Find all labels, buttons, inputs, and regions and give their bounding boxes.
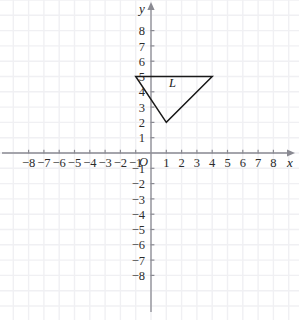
x-tick-label: 6 [240,156,246,170]
plotted-shapes: L [136,76,213,122]
y-tick-label: −5 [132,223,145,237]
x-tick-label: 8 [270,156,276,170]
x-tick-label: 2 [178,156,184,170]
x-tick-label: 3 [194,156,200,170]
y-tick-label: 7 [139,40,145,54]
y-tick-label: −4 [132,208,146,222]
x-tick-label: −8 [22,156,35,170]
x-tick-label: 7 [255,156,261,170]
x-tick-label: −6 [53,156,66,170]
y-tick-label: −2 [132,177,145,191]
x-tick-label: 1 [163,156,169,170]
x-tick-label: 5 [224,156,230,170]
origin-label: O [139,155,148,169]
shape-label-L: L [168,76,176,90]
x-tick-label: −4 [83,156,97,170]
x-tick-label: −2 [114,156,127,170]
coordinate-plane-svg: −8−7−6−5−4−3−2−11234567887654321−1−2−3−4… [0,0,299,320]
y-tick-label: 8 [139,24,145,38]
y-tick-label: 2 [139,116,145,130]
x-tick-label: −7 [37,156,50,170]
y-tick-label: −8 [132,269,145,283]
x-tick-label: −3 [98,156,111,170]
axis-name-labels: xy [137,1,293,170]
coordinate-plane-figure: −8−7−6−5−4−3−2−11234567887654321−1−2−3−4… [0,0,299,320]
x-axis-name-label: x [286,155,293,170]
y-tick-label: 1 [139,131,145,145]
y-tick-label: −3 [132,193,145,207]
x-tick-label: −5 [68,156,81,170]
y-tick-label: −6 [132,238,145,252]
x-tick-label: 4 [209,156,216,170]
y-tick-label: 6 [139,55,145,69]
y-tick-label: 3 [139,101,145,115]
y-tick-label: −7 [132,254,145,268]
y-axis-name-label: y [137,1,145,16]
y-axis-arrowhead [147,2,154,10]
